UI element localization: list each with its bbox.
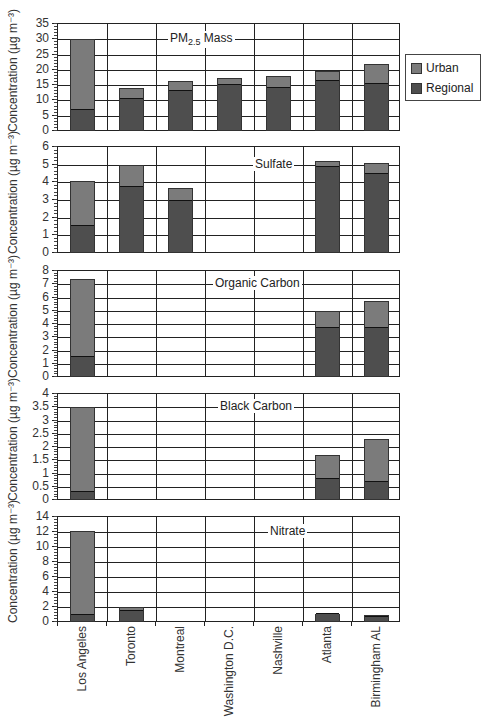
x-tick-label: Montreal bbox=[173, 626, 187, 722]
y-minor-tick bbox=[54, 99, 57, 100]
y-tick-label: 5 bbox=[27, 108, 49, 122]
y-minor-tick bbox=[54, 519, 57, 520]
y-axis-label: Concentration (µg m⁻³) bbox=[6, 500, 20, 623]
y-tick-label: 3.5 bbox=[27, 399, 49, 413]
bar-segment-urban bbox=[71, 408, 94, 499]
x-tick-mark bbox=[351, 621, 352, 626]
bar-segment-regional bbox=[365, 173, 388, 252]
y-tick-label: 15 bbox=[27, 77, 49, 91]
y-minor-tick bbox=[54, 334, 57, 335]
y-minor-tick bbox=[54, 594, 57, 595]
y-minor-tick bbox=[54, 252, 57, 253]
y-minor-tick bbox=[54, 109, 57, 110]
y-tick-label: 4 bbox=[27, 386, 49, 400]
bar-montreal bbox=[168, 188, 193, 253]
y-minor-tick bbox=[54, 315, 57, 316]
urban-swatch bbox=[411, 63, 422, 74]
y-minor-tick bbox=[54, 475, 57, 476]
y-minor-tick bbox=[54, 357, 57, 358]
column-divider bbox=[303, 271, 304, 376]
y-minor-tick bbox=[54, 531, 57, 532]
y-minor-tick bbox=[54, 597, 57, 598]
y-minor-tick bbox=[54, 115, 57, 116]
y-tick-label: 0 bbox=[27, 245, 49, 259]
y-minor-tick bbox=[54, 69, 57, 70]
y-minor-tick bbox=[54, 606, 57, 607]
column-divider bbox=[254, 24, 255, 130]
y-minor-tick bbox=[54, 603, 57, 604]
legend-item-urban: Urban bbox=[411, 61, 459, 75]
bar-segment-regional bbox=[71, 356, 94, 376]
gridline bbox=[58, 474, 399, 475]
y-minor-tick bbox=[54, 494, 57, 495]
bar-segment-regional bbox=[365, 327, 388, 376]
y-minor-tick bbox=[54, 499, 57, 500]
y-minor-tick bbox=[54, 420, 57, 421]
y-tick-label: 2 bbox=[27, 439, 49, 453]
legend: Urban Regional bbox=[405, 54, 481, 101]
column-divider bbox=[352, 24, 353, 130]
column-divider bbox=[205, 394, 206, 499]
y-minor-tick bbox=[54, 23, 57, 24]
y-minor-tick bbox=[54, 29, 57, 30]
y-minor-tick bbox=[54, 320, 57, 321]
y-minor-tick bbox=[54, 462, 57, 463]
y-minor-tick bbox=[54, 473, 57, 474]
y-minor-tick bbox=[54, 591, 57, 592]
y-minor-tick bbox=[54, 199, 57, 200]
column-divider bbox=[107, 517, 108, 621]
y-minor-tick bbox=[54, 112, 57, 113]
bar-birmingham-al bbox=[364, 163, 389, 253]
title-subscript: 2.5 bbox=[188, 38, 201, 48]
y-minor-tick bbox=[54, 157, 57, 158]
y-minor-tick bbox=[54, 35, 57, 36]
y-minor-tick bbox=[54, 217, 57, 218]
y-minor-tick bbox=[54, 339, 57, 340]
gridline bbox=[58, 218, 399, 219]
y-minor-tick bbox=[54, 564, 57, 565]
y-minor-tick bbox=[54, 435, 57, 436]
y-minor-tick bbox=[54, 401, 57, 402]
y-minor-tick bbox=[54, 297, 57, 298]
y-minor-tick bbox=[54, 365, 57, 366]
y-minor-tick bbox=[54, 567, 57, 568]
y-minor-tick bbox=[54, 336, 57, 337]
legend-label-regional: Regional bbox=[426, 81, 473, 95]
gridline bbox=[58, 460, 399, 461]
y-minor-tick bbox=[54, 32, 57, 33]
y-minor-tick bbox=[54, 543, 57, 544]
y-minor-tick bbox=[54, 241, 57, 242]
y-minor-tick bbox=[54, 552, 57, 553]
y-minor-tick bbox=[54, 454, 57, 455]
y-minor-tick bbox=[54, 224, 57, 225]
y-minor-tick bbox=[54, 106, 57, 107]
bar-toronto bbox=[119, 165, 144, 253]
y-minor-tick bbox=[54, 422, 57, 423]
column-divider bbox=[303, 147, 304, 252]
y-minor-tick bbox=[54, 81, 57, 82]
gridline bbox=[58, 532, 399, 533]
x-tick-mark bbox=[57, 621, 58, 626]
bar-toronto bbox=[119, 88, 144, 131]
panel-title: PM2.5 Mass bbox=[168, 31, 235, 47]
x-tick-mark bbox=[253, 621, 254, 626]
y-minor-tick bbox=[54, 371, 57, 372]
legend-item-regional: Regional bbox=[411, 81, 473, 95]
y-minor-tick bbox=[54, 525, 57, 526]
y-minor-tick bbox=[54, 486, 57, 487]
y-minor-tick bbox=[54, 188, 57, 189]
bar-segment-regional bbox=[71, 109, 94, 130]
y-minor-tick bbox=[54, 355, 57, 356]
bar-toronto bbox=[119, 607, 144, 622]
column-divider bbox=[352, 517, 353, 621]
column-divider bbox=[254, 517, 255, 621]
bar-segment-regional bbox=[316, 80, 339, 130]
y-minor-tick bbox=[54, 206, 57, 207]
y-tick-label: 12 bbox=[27, 524, 49, 538]
y-minor-tick bbox=[54, 102, 57, 103]
x-tick-label: Washington D.C. bbox=[222, 626, 236, 722]
y-minor-tick bbox=[54, 171, 57, 172]
y-minor-tick bbox=[54, 579, 57, 580]
y-minor-tick bbox=[54, 443, 57, 444]
y-tick-label: 30 bbox=[27, 31, 49, 45]
